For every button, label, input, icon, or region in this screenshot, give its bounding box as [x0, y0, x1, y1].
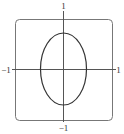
ellipse-plot: 1 −1 −1 1 [0, 0, 124, 134]
y-max-label: 1 [61, 1, 66, 11]
x-min-label: −1 [1, 65, 11, 75]
x-max-label: 1 [116, 65, 121, 75]
y-min-label: −1 [59, 123, 69, 133]
